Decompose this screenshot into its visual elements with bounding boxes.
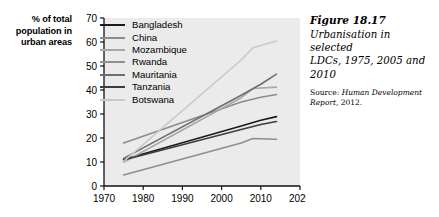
legend-item-mozambique[interactable]: Mozambique [100, 44, 240, 56]
legend-label: China [132, 33, 157, 43]
legend-label: Mauritania [132, 70, 177, 80]
x-axis-tick-label: 1990 [171, 193, 194, 204]
y-axis-caption-line-2: population in [0, 26, 72, 38]
legend-item-rwanda[interactable]: Rwanda [100, 56, 240, 68]
legend-item-tanzania[interactable]: Tanzania [100, 81, 240, 93]
legend-label: Botswana [132, 95, 174, 105]
y-axis-tick-label: 40 [86, 85, 98, 96]
figure-title-line-2: LDCs, 1975, 2005 and [310, 54, 436, 67]
legend-swatch-icon [100, 86, 125, 88]
y-axis-caption-line-1: % of total [0, 14, 72, 26]
figure-title-line-3: 2010 [310, 68, 436, 81]
y-axis-tick-label: 10 [86, 157, 98, 168]
legend-label: Rwanda [132, 57, 167, 67]
x-axis-tick-label: 1970 [93, 193, 116, 204]
y-axis-tick-label: 70 [86, 13, 98, 24]
legend-swatch-icon [100, 99, 125, 101]
legend-label: Mozambique [132, 45, 187, 55]
figure-18-17: % of total population in urban areas 010… [0, 0, 439, 217]
legend-item-bangladesh[interactable]: Bangladesh [100, 19, 240, 31]
source-publication: Human Development [342, 88, 422, 97]
figure-caption: Figure 18.17 Urbanisation in selected LD… [310, 14, 436, 108]
legend-swatch-icon [100, 74, 125, 76]
y-axis-tick-label: 0 [91, 181, 97, 192]
x-axis-tick-label: 2000 [210, 193, 233, 204]
source-year: , 2012. [336, 98, 362, 107]
figure-source: Source: Human Development Report, 2012. [310, 88, 436, 108]
chart-legend: BangladeshChinaMozambiqueRwandaMauritani… [100, 19, 240, 106]
y-axis-caption-line-3: urban areas [0, 37, 72, 49]
figure-title: Urbanisation in selected LDCs, 1975, 200… [310, 28, 436, 81]
legend-item-botswana[interactable]: Botswana [100, 93, 240, 105]
y-axis-tick-label: 30 [86, 109, 98, 120]
x-axis-tick-label: 2020 [289, 193, 306, 204]
legend-swatch-icon [100, 37, 125, 39]
legend-label: Tanzania [132, 82, 170, 92]
x-axis-tick-label: 2010 [250, 193, 273, 204]
y-axis-tick-label: 20 [86, 133, 98, 144]
x-axis-tick-label: 1980 [132, 193, 155, 204]
legend-item-china[interactable]: China [100, 31, 240, 43]
legend-swatch-icon [100, 24, 125, 26]
y-axis-tick-label: 50 [86, 61, 98, 72]
legend-item-mauritania[interactable]: Mauritania [100, 69, 240, 81]
figure-number: Figure 18.17 [310, 14, 436, 27]
legend-label: Bangladesh [132, 20, 183, 30]
legend-swatch-icon [100, 61, 125, 63]
line-chart: 010203040506070197019801990200020102020 … [76, 12, 306, 208]
figure-title-line-1: Urbanisation in selected [310, 28, 436, 54]
y-axis-caption: % of total population in urban areas [0, 14, 72, 49]
source-prefix: Source: [310, 88, 342, 97]
source-publication-cont: Report [310, 98, 336, 107]
y-axis-tick-label: 60 [86, 37, 98, 48]
legend-swatch-icon [100, 49, 125, 51]
